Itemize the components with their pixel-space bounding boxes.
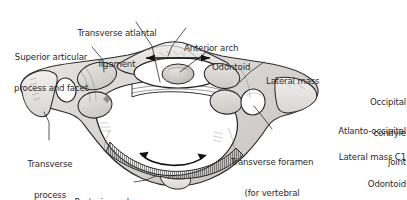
label-superior-articular-process-and-facet: Superior articular process and facet (6, 31, 96, 114)
label-posterior-arch: Posterior arch (54, 176, 132, 200)
label-line-1: Transverse (10, 159, 90, 169)
label-line-2: (for vertebral (226, 188, 318, 198)
label-line-1: Superior articular (6, 52, 96, 62)
label-line-2: process and facet (6, 83, 96, 93)
figure-root: Transverse atlantal ligament Superior ar… (0, 0, 407, 200)
legend-item-odontoid-process-c2: Odontoid process C2 (360, 158, 406, 200)
label-line-1: Lateral mass (266, 76, 319, 86)
label-transverse-foramen: Transverse foramen (for vertebral artery… (226, 136, 318, 200)
label-line-1: Transverse foramen (226, 157, 318, 167)
legend-line-1: Odontoid (360, 179, 406, 189)
label-odontoid: Odontoid (212, 41, 250, 93)
label-line-1: Odontoid (212, 62, 250, 72)
label-line-1: Posterior arch (54, 197, 132, 200)
label-lateral-mass: Lateral mass (266, 55, 319, 107)
